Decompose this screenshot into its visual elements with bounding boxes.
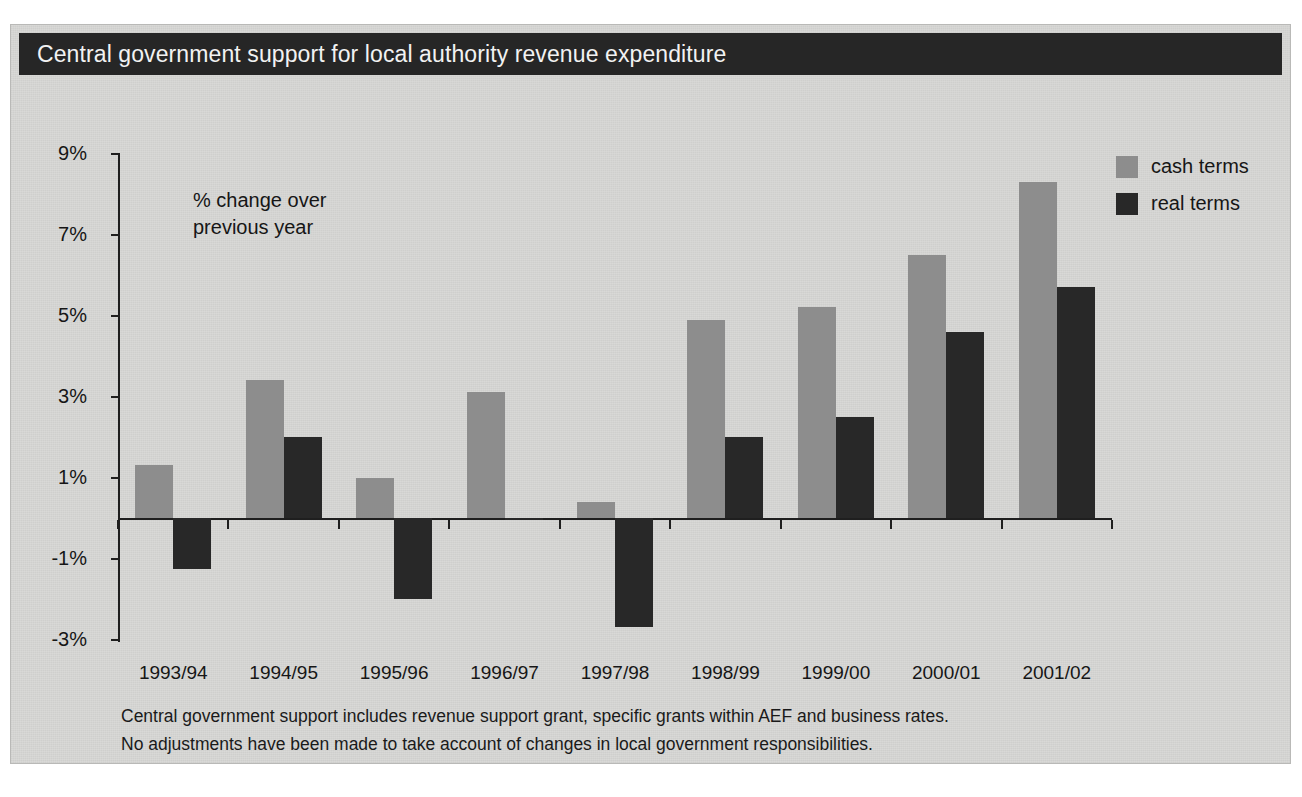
chart-footnotes: Central government support includes reve… (121, 702, 949, 759)
bar-real-1995-96 (394, 518, 432, 599)
y-axis-tick-label: 9% (17, 142, 87, 165)
bar-real-1998-99 (725, 437, 763, 518)
bar-cash-1997-98 (577, 502, 615, 518)
bar-cash-1998-99 (687, 320, 725, 518)
x-axis-tick (227, 520, 229, 529)
x-axis-tick (1001, 520, 1003, 529)
x-axis-tick (1111, 520, 1113, 529)
bar-real-1994-95 (284, 437, 322, 518)
legend-label-cash: cash terms (1151, 155, 1249, 178)
footnote-line-2: No adjustments have been made to take ac… (121, 730, 949, 758)
x-axis-tick (338, 520, 340, 529)
bar-real-2000-01 (946, 332, 984, 518)
plot-area: -3%-1%1%3%5%7%9% 1993/941994/951995/9619… (11, 77, 1292, 763)
bar-cash-1995-96 (356, 478, 394, 519)
bar-cash-2000-01 (908, 255, 946, 518)
x-axis-tick (890, 520, 892, 529)
bar-cash-1999-00 (798, 307, 836, 518)
y-axis-tick (111, 315, 120, 317)
y-axis-tick-label: 5% (17, 304, 87, 327)
annotation-line-1: % change over (193, 187, 326, 214)
scanned-page: Central government support for local aut… (0, 0, 1302, 797)
y-axis-tick-label: 7% (17, 223, 87, 246)
x-axis-tick (669, 520, 671, 529)
bar-real-1999-00 (836, 417, 874, 518)
y-axis-tick (111, 558, 120, 560)
x-axis-tick (780, 520, 782, 529)
y-axis-tick (111, 396, 120, 398)
legend-label-real: real terms (1151, 192, 1240, 215)
bar-real-1996-97 (505, 518, 543, 520)
x-axis-tick (117, 520, 119, 529)
legend-item-cash-terms: cash terms (1116, 155, 1249, 178)
y-axis-tick-label: 3% (17, 385, 87, 408)
chart-title: Central government support for local aut… (19, 41, 726, 68)
y-axis-tick (111, 153, 120, 155)
y-axis-tick (111, 477, 120, 479)
bar-real-1997-98 (615, 518, 653, 627)
bar-cash-1996-97 (467, 392, 505, 518)
legend-swatch-real-icon (1116, 193, 1138, 215)
y-axis-line (118, 153, 120, 642)
y-axis-tick (111, 639, 120, 641)
y-axis-tick-label: 1% (17, 466, 87, 489)
bar-real-1993-94 (173, 518, 211, 569)
chart-figure: Central government support for local aut… (10, 24, 1291, 764)
x-axis-tick (448, 520, 450, 529)
chart-legend: cash terms real terms (1116, 155, 1249, 229)
y-axis-tick-label: -1% (17, 547, 87, 570)
legend-swatch-cash-icon (1116, 156, 1138, 178)
footnote-line-1: Central government support includes reve… (121, 702, 949, 730)
x-axis-tick (559, 520, 561, 529)
bar-real-2001-02 (1057, 287, 1095, 518)
x-axis-category-label: 2001/02 (987, 662, 1127, 684)
annotation-line-2: previous year (193, 214, 326, 241)
plot-annotation: % change over previous year (193, 187, 326, 241)
y-axis-tick-label: -3% (17, 628, 87, 651)
y-axis-tick (111, 234, 120, 236)
chart-title-bar: Central government support for local aut… (19, 33, 1282, 75)
bar-cash-1994-95 (246, 380, 284, 518)
bar-cash-1993-94 (135, 465, 173, 518)
legend-item-real-terms: real terms (1116, 192, 1249, 215)
bar-cash-2001-02 (1019, 182, 1057, 518)
